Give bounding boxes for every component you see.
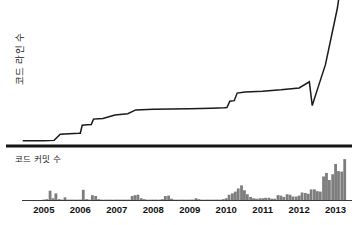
bar [301,192,304,200]
bar [137,195,140,201]
bar [240,185,243,200]
bar [334,164,337,200]
bar [131,196,134,200]
bar [82,190,85,201]
bar [234,192,237,201]
bar [319,192,322,201]
bar [280,196,283,201]
bar [343,159,346,200]
bar [94,196,97,200]
bars-group [42,159,346,200]
bar [298,196,301,201]
bar [228,195,231,201]
bar [337,171,340,200]
bar [164,196,167,200]
bar [313,189,316,200]
x-tick-2012: 2012 [282,204,316,215]
x-tick-2008: 2008 [136,204,170,215]
x-tick-2013: 2013 [319,204,353,215]
chart-figure: 코드 라인 수 코드 커밋 수 200520062007200820092010… [0,0,359,225]
chart-canvas [0,0,359,225]
bar [231,193,234,200]
x-tick-2006: 2006 [63,204,97,215]
bar [237,188,240,200]
bar [307,194,310,201]
bar [243,190,246,200]
x-tick-2007: 2007 [100,204,134,215]
bar [277,195,280,200]
bar [325,173,328,201]
bar [91,195,94,200]
bar [246,194,249,200]
bar [289,195,292,201]
x-tick-2009: 2009 [173,204,207,215]
x-tick-2010: 2010 [209,204,243,215]
bar [304,193,307,201]
bar [316,191,319,200]
bar [167,196,170,201]
bar [134,195,137,200]
bar [322,176,325,200]
line-series-group [23,0,344,141]
x-tick-2011: 2011 [246,204,280,215]
bar [331,174,334,200]
bar [286,194,289,200]
bar [328,180,331,200]
bar [310,189,313,200]
bar [340,172,343,201]
bar [49,191,52,201]
x-tick-2005: 2005 [27,204,61,215]
bar [55,193,58,200]
